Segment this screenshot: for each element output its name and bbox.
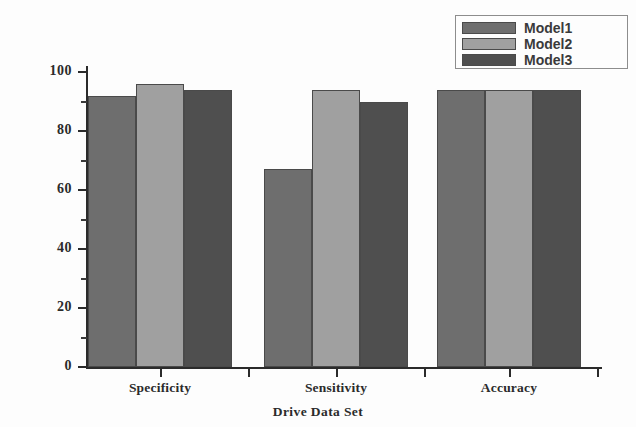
bar-model1-specificity — [88, 96, 136, 367]
y-tick-label-100: 100 — [26, 63, 72, 79]
x-tick-3 — [248, 369, 250, 377]
legend-label-model3: Model3 — [524, 53, 572, 67]
x-axis-title: Drive Data Set — [0, 404, 636, 420]
x-tick-1 — [336, 369, 338, 377]
y-tick-label-20: 20 — [26, 299, 72, 315]
x-category-label-accuracy: Accuracy — [439, 380, 579, 396]
x-tick-5 — [597, 369, 599, 377]
y-minor-tick-90 — [81, 101, 87, 103]
y-tick-100 — [78, 71, 87, 73]
x-category-label-specificity: Specificity — [90, 380, 230, 396]
legend-item[interactable]: Model1 — [462, 20, 621, 35]
y-minor-tick-30 — [81, 278, 87, 280]
bars-plot-area — [88, 72, 600, 367]
x-tick-4 — [424, 369, 426, 377]
y-tick-label-40: 40 — [26, 240, 72, 256]
y-minor-tick-50 — [81, 219, 87, 221]
y-tick-20 — [78, 307, 87, 309]
bar-model1-sensitivity — [264, 169, 312, 367]
legend-item[interactable]: Model3 — [462, 52, 621, 67]
bar-model3-sensitivity — [360, 102, 408, 368]
x-category-label-sensitivity: Sensitivity — [266, 380, 406, 396]
bar-model3-accuracy — [533, 90, 581, 367]
y-tick-0 — [78, 366, 87, 368]
legend-swatch-model3 — [462, 54, 516, 66]
y-minor-tick-10 — [81, 337, 87, 339]
y-tick-40 — [78, 248, 87, 250]
y-tick-60 — [78, 189, 87, 191]
x-tick-0 — [160, 369, 162, 377]
legend-item[interactable]: Model2 — [462, 36, 621, 51]
legend-box: Model1 Model2 Model3 — [455, 15, 628, 69]
y-tick-label-80: 80 — [26, 122, 72, 138]
legend-swatch-model1 — [462, 22, 516, 34]
x-tick-2 — [509, 369, 511, 377]
bar-model1-accuracy — [437, 90, 485, 367]
y-tick-label-60: 60 — [26, 181, 72, 197]
y-tick-80 — [78, 130, 87, 132]
bar-model2-accuracy — [485, 90, 533, 367]
y-minor-tick-70 — [81, 160, 87, 162]
bar-model3-specificity — [184, 90, 232, 367]
bar-model2-sensitivity — [312, 90, 360, 367]
legend-swatch-model2 — [462, 38, 516, 50]
x-axis-line — [86, 367, 602, 369]
legend-label-model2: Model2 — [524, 37, 572, 51]
legend-label-model1: Model1 — [524, 21, 572, 35]
bar-model2-specificity — [136, 84, 184, 367]
chart-figure: 020406080100 SpecificitySensitivityAccur… — [0, 0, 636, 427]
y-tick-label-0: 0 — [26, 358, 72, 374]
